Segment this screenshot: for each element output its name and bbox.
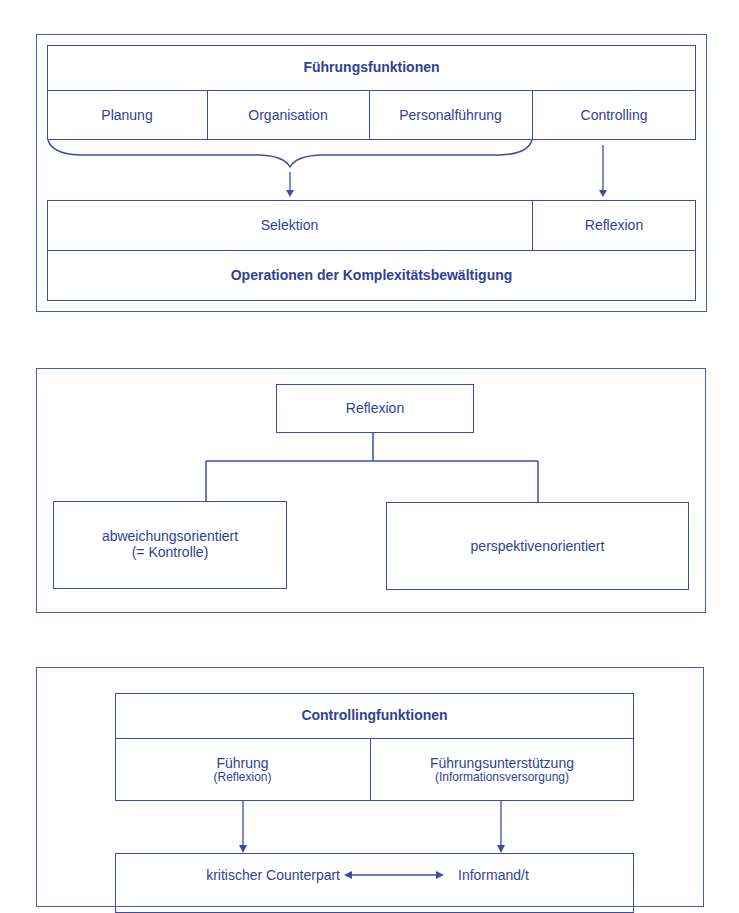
role-kritischer-counterpart: kritischer Counterpart [150,865,340,885]
function-fuehrungsunterstuetzung: Führungsunterstützung (Informationsverso… [370,738,634,801]
curly-brace-icon [48,140,532,167]
fuehrung-label: Führung [216,755,268,771]
function-fuehrung: Führung (Reflexion) [115,738,370,801]
arrow-down-icon [286,190,294,197]
operationen-footer: Operationen der Komplexitätsbewältigung [47,250,696,301]
fuehrungsunterstuetzung-sub: (Informationsversorgung) [435,771,569,785]
abweichungsorientiert-label: abweichungsorientiert (= Kontrolle) [53,501,287,587]
operation-selektion: Selektion [47,200,532,250]
reflexion-root-label: Reflexion [276,384,474,433]
operation-reflexion: Reflexion [532,200,696,250]
kontrolle-text: (= Kontrolle) [132,544,209,560]
arrow-down-icon [599,190,607,197]
fuehrung-sub: (Reflexion) [213,771,271,785]
perspektivenorientiert-label: perspektivenorientiert [386,502,689,590]
abweichungsorientiert-text: abweichungsorientiert [102,528,238,544]
role-informand: Informand/t [458,865,578,885]
controllingfunktionen-title: Controllingfunktionen [115,693,634,738]
fuehrungsunterstuetzung-label: Führungsunterstützung [430,755,574,771]
